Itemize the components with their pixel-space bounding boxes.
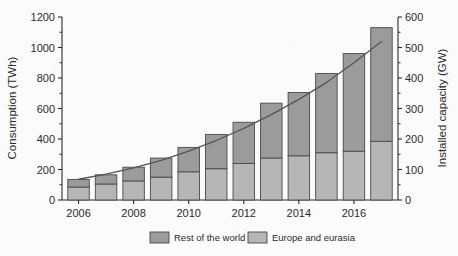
y2-tick-label: 0 [405, 194, 411, 206]
y-axis-title: Consumption (TWh) [6, 56, 18, 159]
x-tick-label: 2008 [121, 207, 145, 219]
bar-group [288, 92, 309, 200]
bar-group [178, 147, 199, 200]
x-tick-label: 2012 [232, 207, 256, 219]
y-tick-label: 1000 [31, 42, 55, 54]
bar-segment-europe-and-eurasia [68, 187, 89, 200]
y-tick-label: 400 [37, 133, 55, 145]
bar-segment-europe-and-eurasia [95, 184, 116, 200]
bar-segment-rest-of-the-world [68, 179, 89, 187]
x-tick-label: 2016 [342, 207, 366, 219]
bar-segment-rest-of-the-world [95, 175, 116, 184]
y2-tick-label: 500 [405, 42, 423, 54]
y-tick-label: 600 [37, 103, 55, 115]
y2-tick-label: 300 [405, 103, 423, 115]
chart-figure: 020040060080010001200 010020030040050060… [0, 0, 458, 256]
bar-group [316, 73, 337, 200]
y2-tick-label: 100 [405, 164, 423, 176]
bar-segment-europe-and-eurasia [150, 177, 171, 200]
bar-group [233, 122, 254, 200]
stacked-bar-line-chart: 020040060080010001200 010020030040050060… [0, 0, 458, 256]
legend-label-europe-and-eurasia: Europe and eurasia [272, 232, 356, 243]
bar-group [371, 28, 392, 200]
y2-tick-label: 200 [405, 133, 423, 145]
bar-segment-europe-and-eurasia [233, 163, 254, 200]
x-tick-label: 2010 [176, 207, 200, 219]
bar-group [68, 179, 89, 200]
y-tick-label: 1200 [31, 11, 55, 23]
legend-swatch-rest-of-the-world [150, 232, 169, 243]
y-tick-label: 0 [49, 194, 55, 206]
legend-label-rest-of-the-world: Rest of the world [174, 232, 245, 243]
bar-group [95, 175, 116, 200]
bars-layer [68, 28, 392, 200]
y2-tick-label: 600 [405, 11, 423, 23]
bar-group [205, 134, 226, 200]
bar-segment-europe-and-eurasia [205, 169, 226, 200]
bar-segment-europe-and-eurasia [178, 172, 199, 200]
bar-group [343, 54, 364, 200]
chart-legend: Rest of the world Europe and eurasia [112, 228, 356, 246]
bar-segment-rest-of-the-world [316, 73, 337, 152]
x-axis-ticks: 200620082010201220142016 [66, 200, 366, 219]
bar-segment-europe-and-eurasia [288, 156, 309, 200]
x-tick-label: 2014 [287, 207, 311, 219]
y-axis-ticks: 020040060080010001200 [31, 11, 62, 206]
bar-group [150, 158, 171, 200]
bar-segment-europe-and-eurasia [343, 151, 364, 200]
bar-segment-europe-and-eurasia [316, 153, 337, 200]
y2-axis-ticks: 0100200300400500600 [398, 11, 423, 206]
bar-segment-rest-of-the-world [205, 134, 226, 168]
bar-segment-rest-of-the-world [288, 92, 309, 155]
y-tick-label: 800 [37, 72, 55, 84]
bar-group [123, 167, 144, 200]
y2-axis-title: Installed capacity (GW) [436, 48, 448, 167]
bar-segment-europe-and-eurasia [123, 181, 144, 200]
bar-segment-europe-and-eurasia [371, 141, 392, 200]
bar-segment-europe-and-eurasia [261, 158, 282, 200]
bar-segment-rest-of-the-world [261, 103, 282, 158]
legend-swatch-europe-and-eurasia [248, 232, 267, 243]
x-tick-label: 2006 [66, 207, 90, 219]
y2-tick-label: 400 [405, 72, 423, 84]
bar-segment-rest-of-the-world [371, 28, 392, 142]
y-tick-label: 200 [37, 164, 55, 176]
